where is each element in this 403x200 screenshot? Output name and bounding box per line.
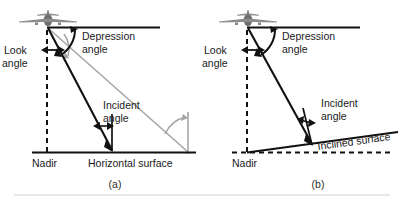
panel-a: Depression angle Look angle Incident ang… (2, 11, 196, 191)
depression-angle-label-line2-b: angle (282, 43, 308, 55)
look-angle-arrowhead-left-b (241, 46, 248, 54)
airplane-engine-right (58, 22, 61, 25)
panel-a-caption: (a) (109, 178, 122, 190)
nadir-label-b: Nadir (232, 157, 258, 169)
nadir-label: Nadir (32, 157, 58, 169)
look-angle-label-line2: angle (2, 57, 28, 69)
panel-b: Depression angle Look angle Incident ang… (202, 11, 398, 191)
incident-angle-label-line1: Incident (103, 99, 140, 111)
gray-arc-arrowhead (181, 114, 188, 121)
figure-container: Depression angle Look angle Incident ang… (0, 0, 403, 200)
panel-b-caption: (b) (312, 178, 325, 190)
airplane-tail-fin-b (247, 11, 249, 17)
airplane-tail-fin (47, 11, 49, 17)
depression-angle-label-line2: angle (82, 43, 108, 55)
horizontal-surface-label: Horizontal surface (88, 157, 173, 169)
incident-angle-label-line1-b: Incident (321, 97, 358, 109)
airplane-engine-left-b (235, 22, 238, 25)
incident-angle-label-line2: angle (103, 112, 129, 124)
incident-angle-arrowhead-left (93, 122, 100, 130)
airplane-front-icon-b (219, 11, 277, 27)
depression-angle-label-line1-b: Depression (282, 30, 335, 42)
look-angle-label-line2-b: angle (202, 57, 228, 69)
airplane-front-icon (19, 11, 77, 27)
incident-angle-arrowhead-right-b (308, 119, 316, 127)
depression-angle-label-line1: Depression (82, 30, 135, 42)
look-angle-label-line1-b: Look (204, 44, 228, 56)
airplane-engine-left (35, 22, 38, 25)
look-angle-arrowhead-left (41, 46, 48, 54)
inclined-surface-label: Inclined surface (317, 130, 392, 152)
radar-geometry-figure: Depression angle Look angle Incident ang… (0, 0, 403, 200)
look-angle-label-line1: Look (4, 44, 28, 56)
airplane-engine-right-b (258, 22, 261, 25)
depression-angle-arc-b (261, 29, 275, 55)
incident-angle-label-line2-b: angle (321, 110, 347, 122)
